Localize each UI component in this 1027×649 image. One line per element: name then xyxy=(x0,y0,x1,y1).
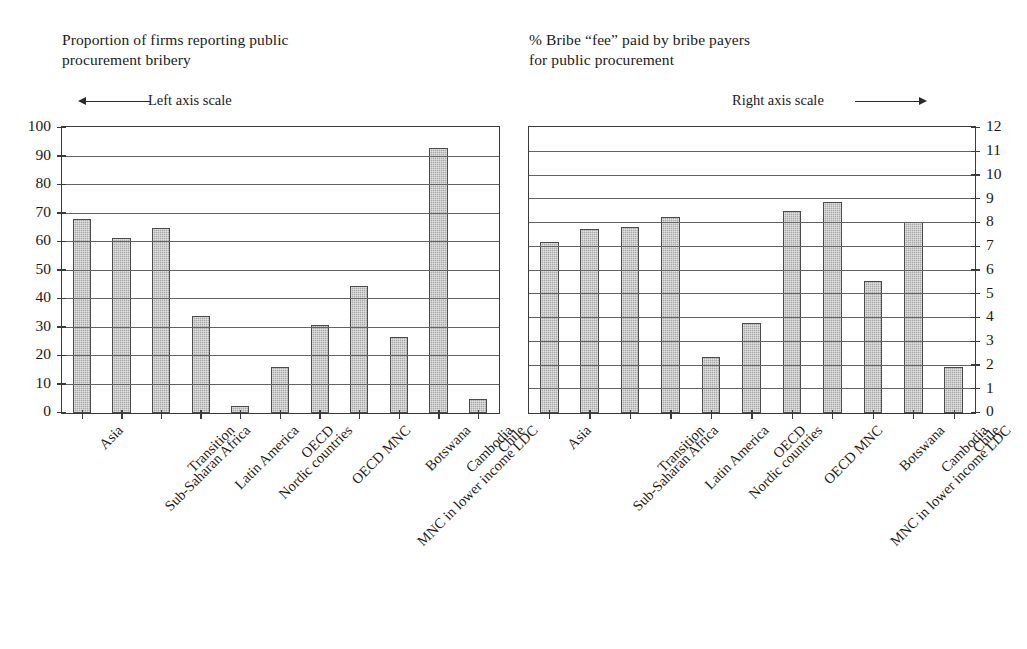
chart-panel-right: % Bribe “fee” paid by bribe payers for p… xyxy=(513,0,1027,649)
x-axis-tick xyxy=(792,410,793,419)
x-axis-tick xyxy=(280,410,281,419)
gridline xyxy=(62,270,499,271)
y-axis-tick xyxy=(57,355,66,356)
y-axis-tick-label: 40 xyxy=(1,288,51,306)
bar xyxy=(350,286,368,413)
x-axis-tick xyxy=(121,410,122,419)
panel-title-right: % Bribe “fee” paid by bribe payers for p… xyxy=(529,30,869,70)
gridline xyxy=(62,355,499,356)
bar xyxy=(152,228,170,413)
bar xyxy=(823,202,842,413)
x-axis-tick xyxy=(589,410,590,419)
y-axis-tick xyxy=(971,222,980,223)
gridline xyxy=(529,388,975,389)
y-axis-tick xyxy=(971,293,980,294)
x-axis-tick xyxy=(873,410,874,419)
y-axis-tick xyxy=(971,412,980,413)
x-axis-tick xyxy=(670,410,671,419)
x-axis-tick xyxy=(399,410,400,419)
gridline xyxy=(529,175,975,176)
y-axis-tick xyxy=(57,127,66,128)
left-axis-scale-arrow-icon xyxy=(78,96,150,106)
y-axis-tick xyxy=(971,364,980,365)
right-axis-scale-label: Right axis scale xyxy=(732,92,824,109)
bar xyxy=(783,211,802,413)
bar xyxy=(742,323,761,413)
x-axis-tick xyxy=(240,410,241,419)
right-axis-scale-arrow-icon xyxy=(855,96,927,106)
gridline xyxy=(529,365,975,366)
x-axis-tick xyxy=(913,410,914,419)
x-axis-category-label: OECD MNC xyxy=(821,422,887,488)
y-axis-tick xyxy=(971,317,980,318)
bar xyxy=(944,367,963,413)
x-axis-tick xyxy=(359,410,360,419)
y-axis-tick xyxy=(57,184,66,185)
gridline xyxy=(62,327,499,328)
y-axis-tick-label: 30 xyxy=(1,317,51,335)
y-axis-tick-label: 7 xyxy=(986,236,1027,254)
x-axis-tick xyxy=(711,410,712,419)
bar xyxy=(580,229,599,413)
plot-area-right xyxy=(528,126,976,414)
bar xyxy=(271,367,289,413)
y-axis-tick xyxy=(57,269,66,270)
y-axis-tick-label: 70 xyxy=(1,203,51,221)
bar xyxy=(621,227,640,413)
bar xyxy=(112,238,130,413)
gridline xyxy=(529,151,975,152)
x-axis-tick xyxy=(630,410,631,419)
y-axis-tick xyxy=(57,383,66,384)
y-axis-tick xyxy=(57,298,66,299)
gridline xyxy=(62,241,499,242)
bar xyxy=(311,325,329,413)
y-axis-tick xyxy=(971,151,980,152)
y-axis-tick xyxy=(57,412,66,413)
x-axis-tick xyxy=(549,410,550,419)
gridline xyxy=(529,317,975,318)
y-axis-tick xyxy=(971,388,980,389)
y-axis-tick-label: 50 xyxy=(1,260,51,278)
gridline xyxy=(529,246,975,247)
plot-area-left xyxy=(61,126,500,414)
y-axis-tick xyxy=(971,198,980,199)
panel-title-left: Proportion of firms reporting public pro… xyxy=(62,30,392,70)
y-axis-tick xyxy=(971,127,980,128)
y-axis-tick-label: 8 xyxy=(986,212,1027,230)
gridline xyxy=(529,293,975,294)
y-axis-tick-label: 4 xyxy=(986,307,1027,325)
x-axis-category-label: Sub-Saharan Africa xyxy=(629,422,722,515)
x-axis-tick xyxy=(751,410,752,419)
y-axis-tick-label: 6 xyxy=(986,260,1027,278)
y-axis-tick-label: 20 xyxy=(1,345,51,363)
y-axis-tick-label: 12 xyxy=(986,117,1027,135)
x-axis-category-label: Asia xyxy=(96,422,127,453)
gridline xyxy=(62,156,499,157)
chart-panel-left: Proportion of firms reporting public pro… xyxy=(0,0,513,649)
gridline xyxy=(529,198,975,199)
y-axis-tick-label: 80 xyxy=(1,174,51,192)
x-axis-tick xyxy=(832,410,833,419)
y-axis-tick xyxy=(971,269,980,270)
y-axis-tick xyxy=(971,341,980,342)
gridline xyxy=(62,384,499,385)
y-axis-tick xyxy=(57,155,66,156)
y-axis-tick-label: 10 xyxy=(986,165,1027,183)
x-axis-tick xyxy=(478,410,479,419)
y-axis-tick-label: 1 xyxy=(986,379,1027,397)
y-axis-tick xyxy=(57,212,66,213)
bar xyxy=(864,281,883,413)
bar xyxy=(429,148,447,413)
y-axis-tick-label: 90 xyxy=(1,146,51,164)
x-axis-category-label: OECD MNC xyxy=(348,422,414,488)
bar xyxy=(702,357,721,413)
y-axis-tick-label: 60 xyxy=(1,231,51,249)
gridline xyxy=(62,298,499,299)
x-axis-tick xyxy=(161,410,162,419)
y-axis-tick-label: 5 xyxy=(986,284,1027,302)
y-axis-tick xyxy=(57,241,66,242)
y-axis-tick-label: 11 xyxy=(986,141,1027,159)
left-axis-scale-label: Left axis scale xyxy=(148,92,232,109)
y-axis-tick-label: 9 xyxy=(986,189,1027,207)
y-axis-tick-label: 0 xyxy=(1,402,51,420)
